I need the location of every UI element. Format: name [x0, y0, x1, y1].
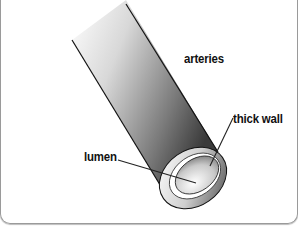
label-lumen: lumen	[84, 149, 117, 164]
label-thick-wall: thick wall	[233, 111, 283, 126]
label-arteries: arteries	[184, 51, 224, 66]
